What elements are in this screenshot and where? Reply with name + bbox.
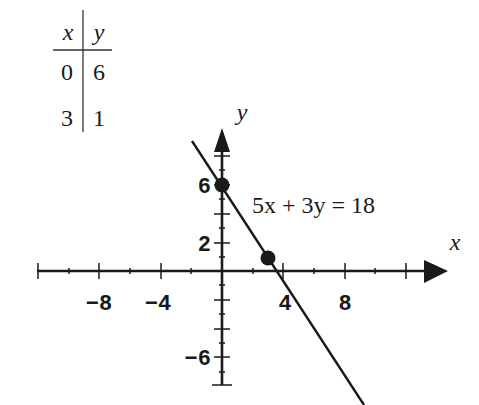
x-axis-arrow-icon: [424, 260, 448, 283]
y-axis-label: y: [235, 99, 248, 125]
figure-canvas: x y 0 6 3 1: [0, 0, 479, 405]
data-point-3-1: [261, 251, 276, 266]
x-tick-label: −4: [145, 292, 171, 317]
table-cell-x: 3: [61, 105, 73, 131]
data-point-0-6: [215, 178, 230, 193]
table-cell-x: 0: [61, 59, 73, 85]
y-tick-label: 2: [198, 233, 211, 258]
y-axis-arrow-icon: [214, 128, 230, 152]
y-tick-label: −6: [185, 347, 211, 372]
axes: x y −8 −4 4 8 6 2 −6: [37, 99, 461, 385]
xy-table: x y 0 6 3 1: [53, 10, 112, 132]
linear-equation-figure: x y 0 6 3 1: [0, 0, 479, 405]
x-tick-label: −8: [86, 292, 112, 317]
x-tick-label: 4: [278, 292, 291, 317]
table-header-y: y: [92, 19, 105, 45]
equation-label: 5x + 3y = 18: [252, 192, 375, 218]
table-cell-y: 6: [93, 59, 105, 85]
y-tick-label: 6: [198, 175, 211, 200]
table-cell-y: 1: [93, 105, 105, 131]
x-axis-label: x: [449, 229, 461, 255]
table-header-x: x: [62, 19, 74, 45]
x-tick-label: 8: [338, 292, 351, 317]
